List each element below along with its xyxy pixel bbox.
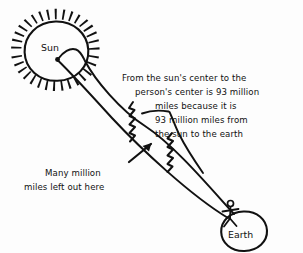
annotation-main-line-3: miles because it is [155,101,237,111]
leader-hook [142,111,169,114]
annotation-left-line-2: miles left out here [24,182,104,192]
annotation-main-line-4: 93 million miles from [155,115,248,125]
sun-label: Sun [41,42,59,53]
annotation-main-line-5: the sun to the earth [155,129,243,139]
diagram-canvas: Sun Earth [0,0,303,253]
beam-lower-edge [58,61,228,219]
sun-earth-diagram: Sun Earth [0,0,303,253]
annotation-main: From the sun's center to the person's ce… [122,73,259,139]
annotation-left: Many million miles left out here [24,168,104,192]
earth-label: Earth [228,229,253,240]
annotation-left-line-1: Many million [45,168,101,178]
annotation-main-line-1: From the sun's center to the [122,73,246,83]
annotation-main-line-2: person's center is 93 million [135,87,259,97]
